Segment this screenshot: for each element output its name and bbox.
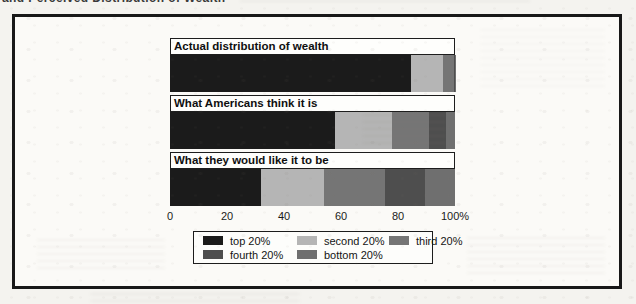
bar-segment-second-20%: [261, 169, 324, 206]
scan-bleed-noise: [37, 239, 165, 271]
bar-segment-fourth-20%: [429, 112, 446, 149]
legend-item-fourth-20: fourth 20%: [203, 249, 297, 261]
legend: top 20% second 20% third 20% fourth 20% …: [193, 231, 433, 264]
scan-bleed-noise: [467, 237, 605, 279]
legend-label-top-20: top 20%: [230, 235, 270, 247]
bar-segment-third-20%: [324, 169, 385, 206]
x-tick-label: 60: [335, 210, 347, 222]
x-axis: 020406080100%: [170, 210, 455, 224]
scan-bleed-noise: [480, 29, 605, 87]
legend-swatch-second-20: [297, 236, 317, 245]
legend-item-second-20: second 20%: [297, 235, 389, 247]
x-tick-label: 40: [278, 210, 290, 222]
x-tick-label: 0: [167, 210, 173, 222]
bar-group-estimated: What Americans think it is: [170, 95, 455, 149]
bar-group-ideal: What they would like it to be: [170, 152, 455, 206]
bar-segment-third-20%: [392, 112, 429, 149]
scanned-page: and Perceived Distribution of Wealth Act…: [0, 0, 636, 304]
legend-swatch-third-20: [389, 236, 409, 245]
legend-label-third-20: third 20%: [416, 235, 462, 247]
stacked-bar-estimated: [170, 112, 455, 149]
bar-segment-bottom-20%: [446, 112, 455, 149]
bar-segment-top-20%: [170, 55, 411, 92]
legend-item-third-20: third 20%: [389, 235, 462, 247]
legend-item-bottom-20: bottom 20%: [297, 249, 389, 261]
legend-item-top-20: top 20%: [203, 235, 297, 247]
scan-bleed-noise: [90, 293, 300, 303]
legend-label-fourth-20: fourth 20%: [230, 249, 283, 261]
legend-label-bottom-20: bottom 20%: [324, 249, 383, 261]
bar-group-actual: Actual distribution of wealth: [170, 38, 455, 92]
bar-segment-third-20%: [443, 55, 454, 92]
bar-title-actual: Actual distribution of wealth: [170, 38, 455, 55]
legend-swatch-top-20: [203, 236, 223, 245]
bar-segment-top-20%: [170, 169, 261, 206]
stacked-bar-actual: [170, 55, 455, 92]
x-tick-label: 80: [392, 210, 404, 222]
legend-swatch-fourth-20: [203, 250, 223, 259]
bar-segment-second-20%: [411, 55, 443, 92]
bar-title-estimated: What Americans think it is: [170, 95, 455, 112]
bar-title-ideal: What they would like it to be: [170, 152, 455, 169]
stacked-bar-ideal: [170, 169, 455, 206]
chart-frame: Actual distribution of wealth What Ameri…: [12, 14, 622, 289]
cropped-page-heading: and Perceived Distribution of Wealth: [2, 0, 422, 5]
legend-label-second-20: second 20%: [324, 235, 385, 247]
bar-segment-top-20%: [170, 112, 335, 149]
x-tick-label: 100%: [441, 210, 469, 222]
bar-segment-bottom-20%: [425, 169, 455, 206]
legend-swatch-bottom-20: [297, 250, 317, 259]
x-tick-label: 20: [221, 210, 233, 222]
bar-segment-fourth-20%: [385, 169, 425, 206]
bar-segment-second-20%: [335, 112, 392, 149]
